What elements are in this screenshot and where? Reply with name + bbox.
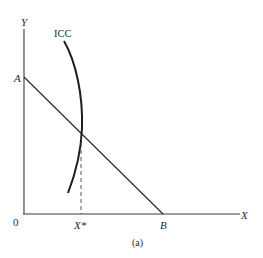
icc-label: ICC bbox=[54, 28, 72, 39]
x-axis-label: X bbox=[240, 209, 249, 221]
y-axis-label: Y bbox=[21, 16, 29, 28]
icc-curve bbox=[64, 41, 82, 193]
point-a-label: A bbox=[13, 72, 21, 84]
x-star-label: X* bbox=[73, 219, 87, 231]
figure-caption: (a) bbox=[132, 237, 143, 249]
point-b-label: B bbox=[160, 219, 167, 231]
icc-diagram: Y X 0 A B X* ICC (a) bbox=[0, 0, 263, 258]
origin-label: 0 bbox=[13, 216, 19, 228]
budget-line bbox=[24, 77, 163, 214]
